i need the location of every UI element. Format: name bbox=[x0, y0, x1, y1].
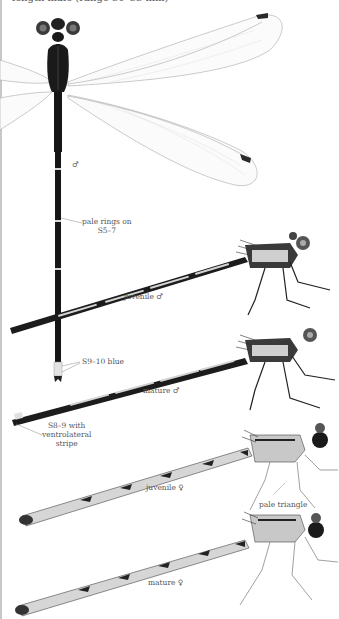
male-dorsal-illustration bbox=[0, 13, 282, 382]
label-mature-female: mature ♀ bbox=[148, 578, 183, 587]
label-pale-rings: pale rings on S5–7 bbox=[82, 217, 132, 235]
label-s9-10: S9–10 blue bbox=[82, 357, 124, 366]
mature-female-illustration bbox=[15, 512, 338, 616]
label-mature-male: mature ♂ bbox=[143, 386, 180, 395]
label-juvenile-male: juvenile ♂ bbox=[124, 292, 163, 301]
damselfly-illustrations bbox=[0, 0, 339, 619]
label-s8-9: S8–9 with ventrolateral stripe bbox=[42, 421, 91, 448]
label-juvenile-female: juvenile ♀ bbox=[146, 483, 184, 492]
label-male-dorsal: ♂ bbox=[72, 160, 79, 169]
label-pale-triangle: pale triangle bbox=[259, 500, 307, 509]
